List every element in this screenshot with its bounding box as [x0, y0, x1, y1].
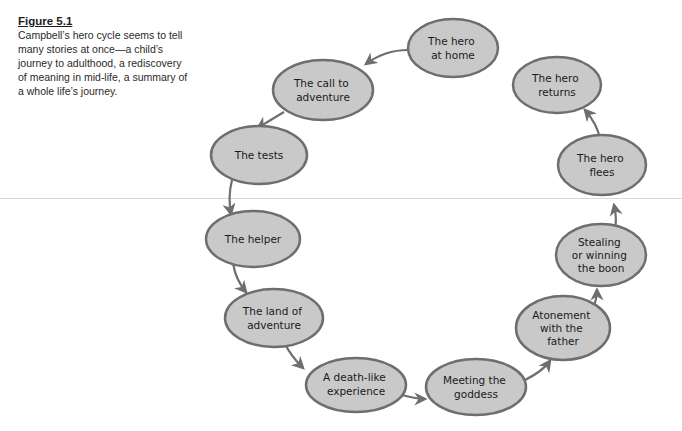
label-the-helper: The helper [224, 233, 282, 245]
node-meeting-the-goddess [426, 359, 526, 415]
node-hero-flees [558, 135, 646, 195]
label-the-tests: The tests [234, 149, 284, 161]
arrow-tests-to-helper [230, 180, 232, 214]
arrow-home-to-call [366, 50, 408, 64]
node-hero-at-home [408, 19, 498, 77]
arrow-goddess-to-atonement [525, 361, 550, 380]
node-land-of-adventure [225, 289, 323, 347]
node-hero-returns [513, 57, 601, 113]
arrow-land-to-death [285, 344, 303, 368]
label-stealing-the-boon: Stealing or winning the boon [572, 236, 630, 274]
node-call-to-adventure [273, 60, 373, 120]
hero-cycle-diagram: The hero at home The call to adventure T… [0, 0, 682, 431]
